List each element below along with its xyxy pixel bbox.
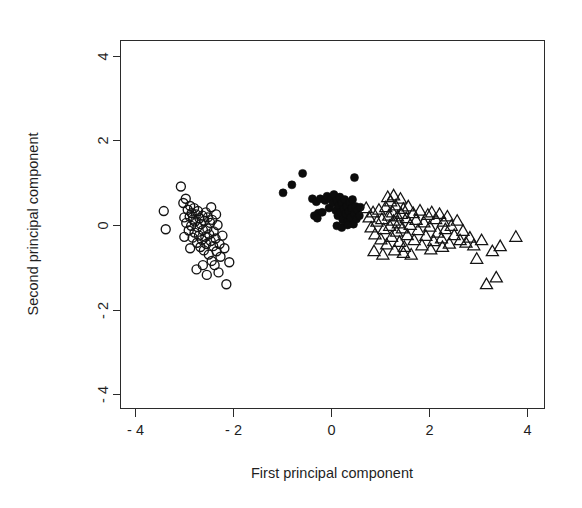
x-tick-label: 0	[327, 422, 335, 438]
data-point-filled-circle	[344, 221, 352, 229]
plot-canvas: - 4- 2024 - 4- 2024 First principal comp…	[0, 0, 582, 508]
data-point-filled-circle	[288, 181, 296, 189]
data-point-filled-circle	[350, 174, 358, 182]
data-point-filled-circle	[313, 214, 321, 222]
y-tick-label: 4	[95, 52, 111, 60]
x-tick-label: - 2	[225, 422, 242, 438]
scatter-plot-figure: - 4- 2024 - 4- 2024 First principal comp…	[0, 0, 582, 508]
x-tick-label: 4	[523, 422, 531, 438]
y-tick-label: - 4	[95, 386, 111, 403]
y-tick-label: 0	[95, 221, 111, 229]
data-point-filled-circle	[299, 169, 307, 177]
x-tick-label: - 4	[127, 422, 144, 438]
y-tick-label: - 2	[95, 302, 111, 319]
y-tick-label: 2	[95, 136, 111, 144]
figure-background	[0, 0, 582, 508]
y-axis-title: Second principal component	[25, 133, 41, 316]
x-tick-label: 2	[425, 422, 433, 438]
x-axis-title: First principal component	[251, 465, 413, 481]
data-point-filled-circle	[279, 189, 287, 197]
